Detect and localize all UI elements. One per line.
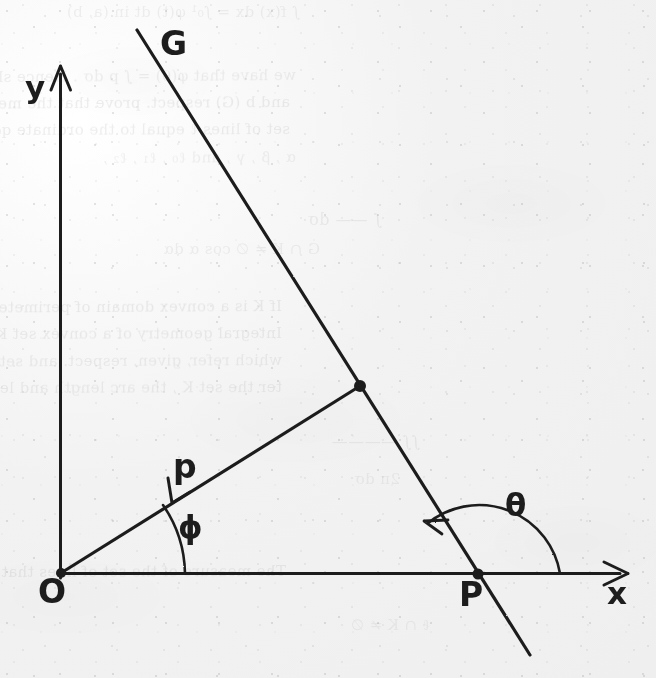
- point-foot: [354, 380, 366, 392]
- x-axis: [58, 562, 628, 585]
- axis-label-x: x: [607, 578, 627, 609]
- angle-theta-arc: [424, 505, 560, 573]
- angle-label-theta: θ: [505, 490, 526, 521]
- point-label-P: P: [459, 578, 483, 611]
- line-G: [137, 30, 530, 655]
- segment-label-p: p: [173, 450, 197, 483]
- geometry-figure: [0, 0, 656, 678]
- segment-p: [61, 386, 360, 573]
- point-label-origin: O: [38, 575, 66, 608]
- scanned-page: ∫ f(x) dx = ∫₀¹ φ(t) dt in (a, b)we have…: [0, 0, 656, 678]
- axis-label-y: y: [25, 72, 45, 103]
- line-label-G: G: [160, 27, 187, 60]
- y-axis: [51, 66, 71, 578]
- angle-label-phi: ϕ: [178, 512, 203, 543]
